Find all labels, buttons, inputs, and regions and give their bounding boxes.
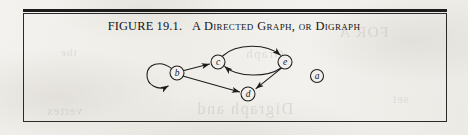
edge-e-c	[225, 67, 281, 75]
graph-node-e: e	[278, 55, 292, 69]
edge-b-c	[184, 64, 209, 71]
graph-node-a: a	[311, 70, 324, 83]
graph-nodes: b c e d a	[170, 55, 324, 101]
directed-graph-diagram: b c e d a	[0, 0, 468, 135]
graph-node-label: b	[175, 68, 180, 78]
graph-node-d: d	[241, 87, 255, 101]
scanned-page: FOR A Graph Digraph and vertex the set F…	[0, 0, 468, 135]
edge-b-b-self-loop	[147, 64, 171, 88]
graph-node-label: a	[315, 71, 320, 81]
graph-node-label: d	[246, 89, 251, 99]
edge-b-d	[184, 76, 240, 92]
graph-node-c: c	[211, 55, 225, 69]
graph-node-label: e	[283, 57, 287, 67]
graph-edges	[147, 46, 281, 92]
edge-e-d	[256, 68, 281, 88]
graph-node-b: b	[170, 66, 184, 80]
edge-c-e	[223, 46, 281, 56]
